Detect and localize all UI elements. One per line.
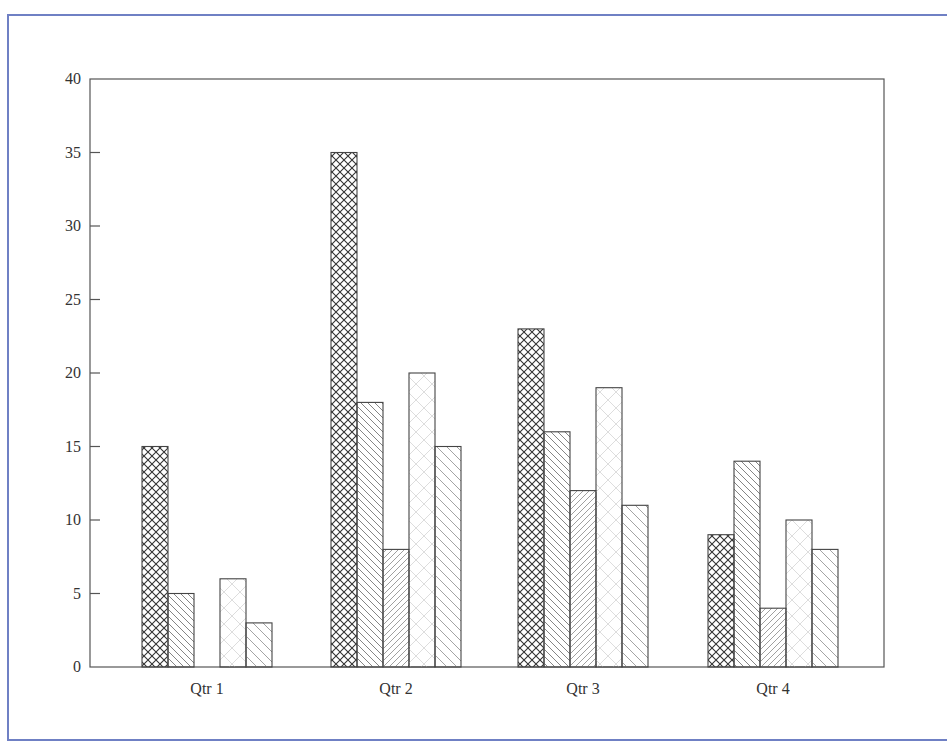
y-tick-label: 0 — [73, 658, 81, 675]
bar-qtr3-series2 — [544, 432, 570, 667]
bar-qtr2-series5 — [435, 447, 461, 668]
bar-qtr1-series5 — [246, 623, 272, 667]
plot-border — [90, 79, 884, 667]
y-tick-label: 15 — [65, 438, 81, 455]
bar-qtr2-series1 — [331, 153, 357, 668]
x-category-label: Qtr 4 — [756, 680, 789, 697]
bar-qtr4-series3 — [760, 608, 786, 667]
x-axis: Qtr 1Qtr 2Qtr 3Qtr 4 — [190, 680, 789, 697]
y-axis: 0510152025303540 — [65, 70, 100, 675]
bar-qtr3-series5 — [622, 505, 648, 667]
bar-qtr1-series2 — [168, 594, 194, 668]
y-tick-label: 30 — [65, 217, 81, 234]
bar-qtr1-series1 — [142, 447, 168, 668]
x-category-label: Qtr 1 — [190, 680, 223, 697]
y-tick-label: 20 — [65, 364, 81, 381]
bar-qtr2-series2 — [357, 402, 383, 667]
bar-qtr3-series1 — [518, 329, 544, 667]
bar-qtr2-series4 — [409, 373, 435, 667]
bar-qtr2-series3 — [383, 549, 409, 667]
y-tick-label: 25 — [65, 291, 81, 308]
bar-qtr4-series1 — [708, 535, 734, 667]
y-tick-label: 40 — [65, 70, 81, 87]
y-tick-label: 35 — [65, 144, 81, 161]
bar-qtr4-series4 — [786, 520, 812, 667]
y-tick-label: 10 — [65, 511, 81, 528]
bar-qtr4-series2 — [734, 461, 760, 667]
x-category-label: Qtr 2 — [379, 680, 412, 697]
plot-area — [90, 79, 884, 667]
bar-qtr3-series3 — [570, 491, 596, 667]
x-category-label: Qtr 3 — [566, 680, 599, 697]
bar-qtr1-series4 — [220, 579, 246, 667]
bar-qtr4-series5 — [812, 549, 838, 667]
y-tick-label: 5 — [73, 585, 81, 602]
bar-qtr3-series4 — [596, 388, 622, 667]
bars — [142, 153, 838, 668]
